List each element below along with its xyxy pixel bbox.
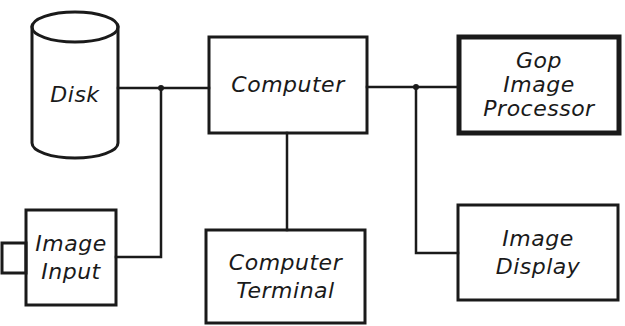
gop-processor-label: Gop Image Processor (459, 37, 619, 133)
image-input-label-line-1: Image (35, 230, 106, 258)
disk-label: Disk (32, 70, 118, 120)
display-label-line-2: Display (496, 253, 581, 281)
gop-label-line-3: Processor (483, 97, 594, 121)
image-input-label: Image Input (26, 210, 116, 305)
terminal-label-line-2: Terminal (236, 277, 334, 305)
gop-label-line-2: Image (503, 73, 574, 97)
display-label-line-1: Image (502, 225, 573, 253)
terminal-label-line-1: Computer (229, 249, 342, 277)
disk-label-line: Disk (50, 83, 99, 107)
gop-label-line-1: Gop (516, 49, 562, 73)
image-input-label-line-2: Input (41, 258, 100, 286)
terminal-label: Computer Terminal (206, 230, 365, 323)
junction-dot-right (413, 84, 419, 90)
camera-lens-icon (2, 243, 26, 273)
computer-label: Computer (209, 37, 367, 133)
junction-dot-left (158, 85, 164, 91)
image-display-label: Image Display (458, 205, 618, 300)
computer-label-line: Computer (231, 73, 344, 97)
